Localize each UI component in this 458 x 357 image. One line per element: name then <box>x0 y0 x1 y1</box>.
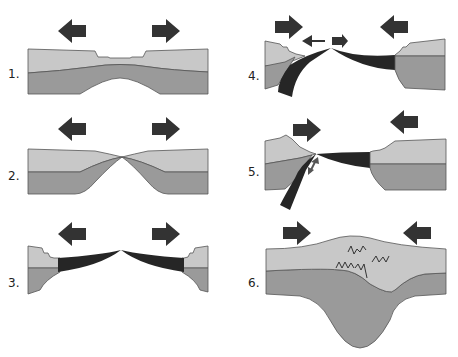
oceanic-crust <box>121 250 184 272</box>
crust-layer <box>395 39 445 56</box>
panel-label: 3. <box>8 276 19 290</box>
mantle-layer <box>395 56 445 90</box>
small-arrow-right-icon <box>332 34 348 48</box>
mantle-layer <box>182 268 208 292</box>
small-arrow-left-icon <box>302 35 325 47</box>
arrow-right-icon <box>283 221 311 245</box>
panel-label: 2. <box>8 169 19 183</box>
arrow-left-icon <box>58 222 86 246</box>
panel-4: 4. <box>248 15 445 97</box>
arrow-right-icon <box>275 15 303 39</box>
arrow-right-icon <box>293 118 321 142</box>
oceanic-crust <box>316 152 370 168</box>
panel-1: 1. <box>8 19 208 94</box>
panel-2: 2. <box>8 117 208 194</box>
crust-layer <box>182 246 208 268</box>
panel-5: 5. <box>248 110 446 210</box>
mantle-layer <box>370 164 446 190</box>
arrow-right-icon <box>152 222 180 246</box>
panel-label: 5. <box>248 165 259 179</box>
arrow-right-icon <box>152 19 180 43</box>
panel-label: 1. <box>8 67 19 81</box>
arrow-left-icon <box>403 221 431 245</box>
arrow-left-icon <box>58 117 86 141</box>
oceanic-crust <box>58 250 121 272</box>
oceanic-crust <box>331 48 395 70</box>
arrow-left-icon <box>390 110 418 134</box>
panel-3: 3. <box>8 222 208 294</box>
panel-label: 4. <box>248 69 259 83</box>
panel-6: 6. <box>248 221 446 348</box>
arrow-left-icon <box>58 19 86 43</box>
crust-layer <box>28 246 60 268</box>
crust-layer <box>370 139 446 164</box>
mantle-layer <box>28 268 60 294</box>
tectonics-diagram: 1. 2. 3. 4. <box>0 0 458 357</box>
arrow-right-icon <box>152 117 180 141</box>
panel-label: 6. <box>248 276 259 290</box>
mantle-root <box>266 269 446 348</box>
arrow-left-icon <box>380 15 408 39</box>
